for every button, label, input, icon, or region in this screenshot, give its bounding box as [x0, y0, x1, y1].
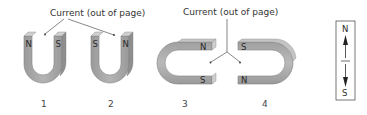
magnet-1-number: 1 [41, 99, 47, 109]
magnet-2-left-pole: S [93, 39, 98, 49]
magnet-2-number: 2 [108, 99, 114, 109]
current-dot-3 [210, 62, 212, 64]
leader-line-2c [227, 52, 240, 62]
magnet-3-number: 3 [182, 99, 188, 109]
leader-line-1a [45, 19, 64, 34]
magnet-1-left-pole: N [26, 39, 32, 49]
leader-line-1b [68, 19, 114, 35]
magnet-3: N S [157, 39, 216, 85]
callout-label-1: Current (out of page) [50, 8, 145, 18]
magnet-1: N S [24, 32, 66, 83]
compass-north-label: N [342, 24, 348, 34]
magnet-4-number: 4 [262, 99, 268, 109]
magnet-4-bottom-pole: N [241, 75, 247, 85]
magnet-3-bottom-pole: S [200, 75, 205, 85]
magnet-3-top-pole: N [200, 42, 206, 52]
magnet-4: S N [238, 39, 296, 85]
current-dot-1 [44, 34, 46, 36]
callout-label-2: Current (out of page) [183, 7, 278, 17]
magnet-diagram: Current (out of page) N S 1 S N 2 Curren… [0, 0, 367, 115]
magnet-4-top-pole: S [241, 42, 246, 52]
magnet-2-right-pole: N [123, 39, 129, 49]
magnet-2: S N [91, 32, 133, 83]
leader-line-2b [211, 52, 227, 62]
magnet-1-right-pole: S [56, 39, 61, 49]
compass-south-label: S [342, 88, 347, 98]
current-dot-2 [113, 34, 115, 36]
current-dot-4 [239, 62, 241, 64]
compass-legend: N S [336, 21, 355, 100]
